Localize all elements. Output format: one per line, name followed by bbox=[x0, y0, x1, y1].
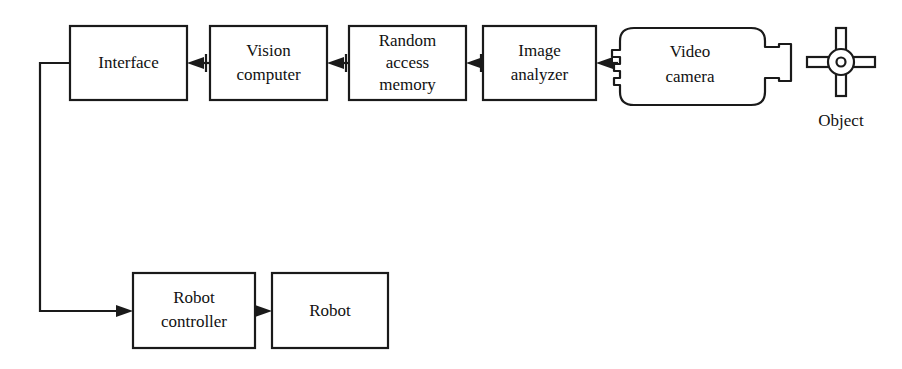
arrowhead-into-robot-controller bbox=[116, 305, 133, 317]
arrowhead-into-robot bbox=[255, 305, 272, 317]
node-image-analyzer[interactable]: Image analyzer bbox=[483, 26, 596, 100]
node-video-camera[interactable]: Video camera bbox=[612, 28, 791, 105]
connector-image-analyzer-to-memory bbox=[466, 54, 483, 72]
vision-computer-box[interactable] bbox=[210, 26, 327, 100]
object-caption: Object bbox=[818, 111, 864, 130]
node-random-access-memory[interactable]: Random access memory bbox=[349, 26, 466, 100]
object-spoke-top bbox=[836, 28, 846, 50]
node-object[interactable]: Object bbox=[807, 28, 875, 130]
node-vision-computer[interactable]: Vision computer bbox=[210, 26, 327, 100]
arrowhead-into-image-analyzer bbox=[596, 57, 613, 69]
node-robot[interactable]: Robot bbox=[272, 273, 388, 348]
image-analyzer-label-line-1: Image bbox=[518, 41, 560, 60]
image-analyzer-box[interactable] bbox=[483, 26, 596, 100]
machine-vision-block-diagram: Interface Vision computer Random access … bbox=[0, 0, 902, 369]
node-interface[interactable]: Interface bbox=[70, 26, 187, 100]
robot-controller-box[interactable] bbox=[133, 273, 255, 348]
object-spoke-left bbox=[807, 57, 829, 67]
connector-vision-computer-to-interface bbox=[187, 54, 210, 72]
vision-computer-label-line-2: computer bbox=[236, 65, 301, 84]
arrowhead-into-vision-computer bbox=[327, 57, 344, 69]
robot-controller-label-line-1: Robot bbox=[173, 288, 215, 307]
connector-robot-controller-to-robot bbox=[255, 305, 272, 317]
random-access-memory-label-line-3: memory bbox=[379, 75, 436, 94]
video-camera-label-line-2: camera bbox=[665, 67, 715, 86]
video-camera-label-line-1: Video bbox=[670, 42, 711, 61]
random-access-memory-label-line-2: access bbox=[386, 53, 429, 72]
connector-memory-to-vision-computer bbox=[327, 54, 349, 72]
arrowhead-into-interface bbox=[187, 57, 204, 69]
vision-computer-label-line-1: Vision bbox=[246, 41, 291, 60]
object-spoke-right bbox=[853, 57, 875, 67]
robot-label: Robot bbox=[309, 301, 351, 320]
robot-controller-label-line-2: controller bbox=[161, 312, 227, 331]
interface-label: Interface bbox=[98, 53, 158, 72]
node-robot-controller[interactable]: Robot controller bbox=[133, 273, 255, 348]
object-center-hole bbox=[837, 58, 846, 67]
block-diagram-canvas: Interface Vision computer Random access … bbox=[0, 0, 902, 369]
object-spoke-bottom bbox=[836, 74, 846, 96]
random-access-memory-label-line-1: Random bbox=[379, 31, 437, 50]
image-analyzer-label-line-2: analyzer bbox=[511, 65, 569, 84]
